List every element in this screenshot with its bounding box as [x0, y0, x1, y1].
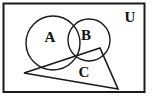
set-label-c: C	[79, 64, 90, 80]
venn-diagram-canvas: A B C U	[0, 0, 157, 99]
universe-label: U	[125, 9, 136, 25]
set-label-a: A	[45, 29, 56, 45]
venn-diagram-figure: A B C U	[0, 0, 157, 99]
universe-rectangle	[4, 4, 145, 93]
set-label-b: B	[81, 27, 91, 43]
